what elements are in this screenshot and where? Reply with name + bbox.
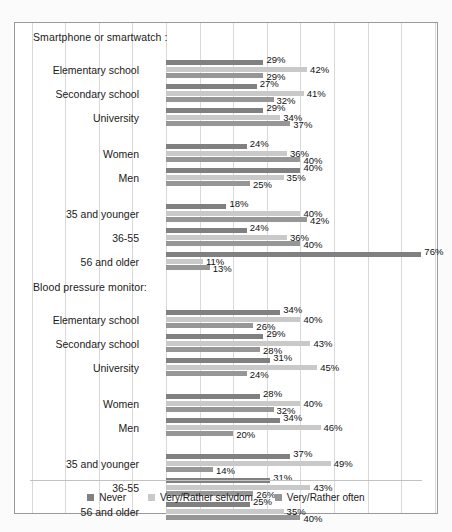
legend-swatch-icon [87, 494, 94, 501]
bar-group: 37%49%14% [166, 453, 438, 475]
chart-legend: NeverVery/Rather selvdomVery/Rather ofte… [15, 492, 437, 503]
bar-group: 27%41%32% [166, 83, 438, 105]
category-label: Women [0, 148, 139, 160]
bar [166, 358, 270, 363]
bar [166, 241, 300, 246]
bar-value-label: 35% [287, 173, 306, 182]
category-label: 56 and older [0, 506, 139, 518]
bar [166, 144, 247, 149]
chart-category-row: Elementary school29%42%29% [15, 57, 437, 83]
bar-value-label: 43% [313, 339, 332, 348]
bar [166, 211, 300, 216]
bar-value-label: 45% [320, 363, 339, 372]
bar-group: 29%43%28% [166, 333, 438, 355]
bar-value-label: 29% [266, 55, 285, 64]
bar-group: 34%46%20% [166, 417, 438, 439]
chart-category-row: 35 and younger18%40%42% [15, 201, 437, 227]
category-label: University [0, 112, 139, 124]
bar-value-label: 37% [293, 449, 312, 458]
bar-value-label: 49% [334, 459, 353, 468]
bar [166, 259, 203, 264]
bar [166, 347, 260, 352]
bar [166, 265, 210, 270]
category-label: Elementary school [0, 64, 139, 76]
bar-value-label: 76% [424, 247, 443, 256]
bar-value-label: 24% [250, 370, 269, 379]
bar-value-label: 25% [253, 180, 272, 189]
chart-category-row: Men40%35%25% [15, 165, 437, 191]
bar [166, 157, 300, 162]
chart-rows: Smartphone or smartwatch :Elementary sch… [15, 23, 437, 513]
bar [166, 341, 310, 346]
bar [166, 310, 280, 315]
bar-value-label: 42% [310, 216, 329, 225]
bar-group: 24%36%40% [166, 143, 438, 165]
bar [166, 60, 263, 65]
bar-group: 40%35%25% [166, 167, 438, 189]
bar-group: 76%11%13% [166, 251, 438, 273]
section-title: Smartphone or smartwatch : [33, 31, 168, 43]
bar [166, 217, 307, 222]
bar [166, 151, 287, 156]
section-title: Blood pressure monitor: [33, 281, 147, 293]
legend-item[interactable]: Very/Rather selvdom [148, 492, 253, 503]
bar [166, 84, 257, 89]
bar [166, 467, 213, 472]
chart-category-row: University31%45%24% [15, 355, 437, 381]
bar-value-label: 34% [283, 305, 302, 314]
chart-category-row: Secondary school29%43%28% [15, 331, 437, 357]
bar [166, 515, 300, 520]
chart-category-row: University29%34%37% [15, 105, 437, 131]
category-label: 56 and older [0, 256, 139, 268]
bar [166, 97, 274, 102]
bar-value-label: 24% [250, 139, 269, 148]
legend-item[interactable]: Never [87, 492, 126, 503]
legend-swatch-icon [275, 494, 282, 501]
bar [166, 418, 280, 423]
bar-value-label: 42% [310, 65, 329, 74]
bar-value-label: 24% [250, 223, 269, 232]
category-label: Secondary school [0, 338, 139, 350]
category-label: 35 and younger [0, 208, 139, 220]
bar-value-label: 40% [303, 315, 322, 324]
bar [166, 334, 263, 339]
bar [166, 461, 331, 466]
chart-figure: Smartphone or smartwatch :Elementary sch… [0, 0, 452, 532]
bar-value-label: 40% [303, 240, 322, 249]
legend-swatch-icon [148, 494, 155, 501]
bar-group: 34%40%26% [166, 309, 438, 331]
bar [166, 407, 274, 412]
bar [166, 365, 317, 370]
legend-label: Very/Rather often [287, 492, 365, 503]
bar [166, 168, 300, 173]
bar [166, 181, 250, 186]
category-label: 36-55 [0, 232, 139, 244]
chart-category-row: Men34%46%20% [15, 415, 437, 441]
bar-value-label: 40% [303, 514, 322, 523]
bar-value-label: 29% [266, 329, 285, 338]
bar-group: 24%36%40% [166, 227, 438, 249]
plot-area: Smartphone or smartwatch :Elementary sch… [14, 22, 438, 514]
bar [166, 454, 290, 459]
bar-value-label: 43% [313, 483, 332, 492]
category-label: Men [0, 172, 139, 184]
bar [166, 235, 287, 240]
bar-value-label: 18% [229, 199, 248, 208]
bar [166, 204, 226, 209]
chart-category-row: Secondary school27%41%32% [15, 81, 437, 107]
category-label: University [0, 362, 139, 374]
bar [166, 115, 280, 120]
bar-value-label: 13% [213, 264, 232, 273]
category-label: Secondary school [0, 88, 139, 100]
bar [166, 317, 300, 322]
bar [166, 121, 290, 126]
category-label: Elementary school [0, 314, 139, 326]
chart-category-row: Elementary school34%40%26% [15, 307, 437, 333]
bar-value-label: 40% [303, 163, 322, 172]
bar [166, 394, 260, 399]
bar-group: 28%40%32% [166, 393, 438, 415]
bar-value-label: 40% [303, 399, 322, 408]
bar [166, 323, 253, 328]
legend-item[interactable]: Very/Rather often [275, 492, 365, 503]
bar-value-label: 27% [260, 79, 279, 88]
